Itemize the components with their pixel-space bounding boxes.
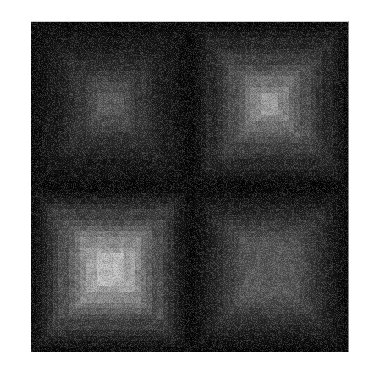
heatmap-canvas-bottom-right xyxy=(190,187,349,353)
heatmap-tile-top-left xyxy=(31,21,190,187)
heatmap-canvas-top-left xyxy=(31,21,190,187)
heatmap-tile-top-right xyxy=(190,21,349,187)
heatmap-canvas-top-right xyxy=(190,21,349,187)
heatmap-canvas-bottom-left xyxy=(31,187,190,353)
heatmap-grid-panel xyxy=(31,21,349,352)
heatmap-tile-bottom-right xyxy=(190,187,349,353)
heatmap-tile-bottom-left xyxy=(31,187,190,353)
figure-root: Two-by-two grid of grayscale rasters; ea… xyxy=(0,0,369,375)
